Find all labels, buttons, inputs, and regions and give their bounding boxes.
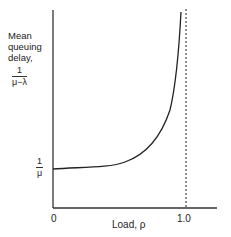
x-tick-0: 0	[51, 213, 57, 224]
x-tick-1: 1.0	[177, 213, 191, 224]
delay-curve	[53, 12, 181, 169]
x-axis-label: Load, ρ	[112, 219, 146, 230]
chart-plot	[0, 0, 231, 237]
